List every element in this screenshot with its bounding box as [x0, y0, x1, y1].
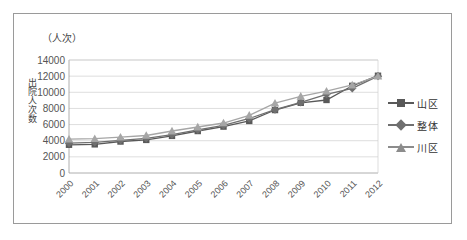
- x-tick-label: 2008: [260, 178, 281, 199]
- y-tick-label: 14000: [37, 55, 65, 66]
- data-point: [245, 111, 253, 119]
- y-tick-label: 6000: [43, 119, 66, 130]
- x-tick-label: 2000: [54, 178, 75, 199]
- legend-label-zhengti: 整体: [417, 118, 439, 133]
- x-tick-label: 2009: [286, 178, 307, 199]
- x-tick-label: 2002: [106, 178, 127, 199]
- legend-marker-diamond: [388, 119, 414, 131]
- x-tick-label: 2004: [157, 178, 178, 199]
- x-tick-label: 2010: [312, 178, 333, 199]
- legend-label-chuanqu: 川区: [417, 140, 439, 155]
- x-tick-label: 2007: [234, 178, 255, 199]
- y-tick-label: 10000: [37, 87, 65, 98]
- x-tick-label: 2006: [209, 178, 230, 199]
- x-tick-label: 2001: [80, 178, 101, 199]
- legend-item-chuanqu[interactable]: 川区: [388, 136, 452, 158]
- y-tick-label: 4000: [43, 135, 66, 146]
- series-line-1: [69, 76, 378, 143]
- y-tick-label: 12000: [37, 71, 65, 82]
- x-tick-label: 2003: [131, 178, 152, 199]
- x-tick-label: 2005: [183, 178, 204, 199]
- series-line-0: [69, 76, 378, 145]
- legend-marker-square: [388, 97, 414, 109]
- y-tick-label: 8000: [43, 103, 66, 114]
- chart-legend: 山区 整体 川区: [388, 92, 452, 158]
- legend-item-shanqu[interactable]: 山区: [388, 92, 452, 114]
- legend-label-shanqu: 山区: [417, 96, 439, 111]
- y-tick-label: 2000: [43, 151, 66, 162]
- y-tick-label: 0: [59, 168, 65, 179]
- legend-item-zhengti[interactable]: 整体: [388, 114, 452, 136]
- x-tick-label: 2012: [363, 178, 384, 199]
- legend-marker-triangle: [388, 141, 414, 153]
- x-tick-label: 2011: [338, 178, 359, 199]
